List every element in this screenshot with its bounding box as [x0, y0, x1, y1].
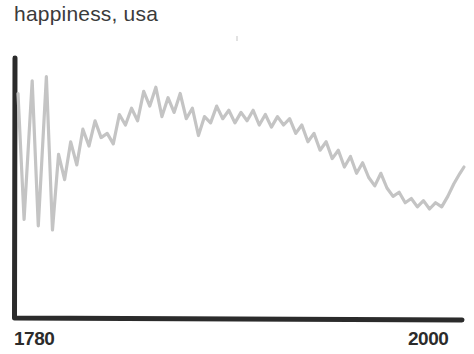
x-axis-tick-end: 2000 — [408, 328, 448, 350]
line-chart-plot — [0, 0, 474, 354]
axis-lines — [15, 58, 463, 320]
axes — [15, 58, 463, 320]
chart-page: happiness, usa 1780 2000 — [0, 0, 474, 354]
x-axis-tick-start: 1780 — [14, 328, 54, 350]
series-line-happiness — [18, 77, 464, 230]
series-group — [18, 77, 464, 230]
